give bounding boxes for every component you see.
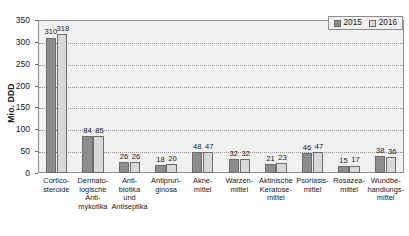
- bar-2015[interactable]: [302, 153, 313, 173]
- x-tick-label: Wundbe- handlungs- mittel: [364, 177, 407, 203]
- bar-chart: Mio. DDD 050100150200250300350 310318848…: [0, 0, 409, 236]
- bar-value-label: 36: [384, 148, 400, 156]
- bar-value-label: 20: [165, 155, 181, 163]
- y-tick-mark: [35, 173, 38, 174]
- bar-2015[interactable]: [192, 152, 203, 173]
- bar-2015[interactable]: [229, 159, 240, 173]
- bar-value-label: 26: [128, 153, 144, 161]
- bar-2016[interactable]: [130, 162, 141, 173]
- bar-group: 1820: [155, 20, 177, 173]
- bar-group: 8485: [82, 20, 104, 173]
- y-tick-label: 350: [4, 16, 30, 25]
- bar-value-label: 47: [201, 143, 217, 151]
- x-axis-labels: Cortico- steroideDermato- logische Anti-…: [38, 177, 404, 236]
- bar-2016[interactable]: [203, 152, 214, 173]
- y-tick-label: 150: [4, 103, 30, 112]
- bar-group: 4847: [192, 20, 214, 173]
- bar-2015[interactable]: [265, 164, 276, 173]
- y-tick-label: 300: [4, 38, 30, 47]
- bar-2015[interactable]: [375, 156, 386, 173]
- bar-group: 2626: [119, 20, 141, 173]
- legend-label-2015: 2015: [344, 19, 362, 27]
- legend: 2015 2016: [328, 16, 403, 30]
- bar-groups: 3103188485262618204847323221234647151738…: [38, 20, 404, 173]
- bar-value-label: 85: [92, 127, 108, 135]
- bar-2016[interactable]: [276, 163, 287, 173]
- legend-label-2016: 2016: [379, 19, 397, 27]
- bar-group: 2123: [265, 20, 287, 173]
- bar-2015[interactable]: [155, 165, 166, 173]
- bar-2016[interactable]: [57, 34, 68, 173]
- bar-2016[interactable]: [166, 164, 177, 173]
- legend-swatch-icon-2016: [369, 20, 376, 27]
- bar-group: 4647: [302, 20, 324, 173]
- bar-2015[interactable]: [46, 38, 57, 174]
- bar-value-label: 32: [238, 150, 254, 158]
- bar-2016[interactable]: [313, 152, 324, 173]
- bar-value-label: 47: [311, 143, 327, 151]
- bar-value-label: 23: [275, 154, 291, 162]
- bar-group: 3836: [375, 20, 397, 173]
- legend-item-2016[interactable]: 2016: [369, 19, 397, 27]
- bar-2016[interactable]: [349, 166, 360, 173]
- bar-group: 1517: [338, 20, 360, 173]
- legend-item-2015[interactable]: 2015: [334, 19, 362, 27]
- legend-swatch-icon-2015: [334, 20, 341, 27]
- y-tick-label: 200: [4, 82, 30, 91]
- y-tick-label: 50: [4, 147, 30, 156]
- bar-2016[interactable]: [93, 136, 104, 173]
- bar-value-label: 318: [55, 25, 71, 33]
- bar-2015[interactable]: [338, 166, 349, 173]
- bar-2015[interactable]: [82, 136, 93, 173]
- y-tick-label: 100: [4, 125, 30, 134]
- bar-2016[interactable]: [386, 157, 397, 173]
- bar-group: 310318: [46, 20, 68, 173]
- bar-2016[interactable]: [240, 159, 251, 173]
- bar-value-label: 17: [348, 156, 364, 164]
- y-tick-label: 250: [4, 60, 30, 69]
- bar-group: 3232: [229, 20, 251, 173]
- bar-2015[interactable]: [119, 162, 130, 173]
- y-tick-label: 0: [4, 169, 30, 178]
